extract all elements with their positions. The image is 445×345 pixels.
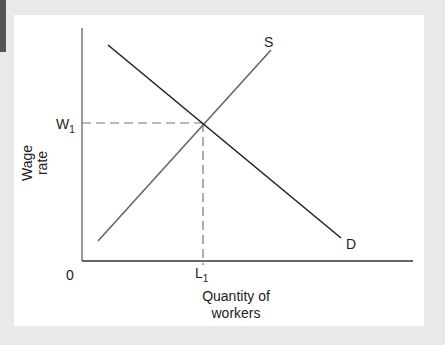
y-axis-title: Wage rate [20, 140, 50, 186]
origin-label: 0 [66, 268, 74, 282]
supply-curve [98, 50, 271, 241]
supply-label: S [264, 35, 273, 49]
quantity-tick-label: L1 [195, 266, 208, 280]
demand-label: D [346, 237, 356, 251]
wage-tick-label: W1 [56, 117, 75, 131]
demand-curve [108, 45, 341, 238]
x-axis-title: Quantity of workers [176, 288, 296, 322]
